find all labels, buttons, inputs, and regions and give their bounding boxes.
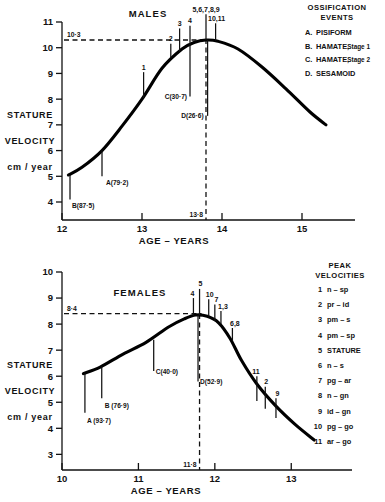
females-legend-item-key: 2 xyxy=(318,300,322,309)
males-peak-velocity-marker-label: 10,11 xyxy=(208,15,225,23)
males-ossification-marker-label: A(79·2) xyxy=(106,179,128,187)
males-y-axis-label-line: STATURE xyxy=(7,110,53,120)
males-peak-velocity-marker-label: 5,6,7,8,9 xyxy=(192,6,219,14)
males-x-tick-label: 14 xyxy=(217,223,228,234)
females-y-axis-label-line: VELOCITY xyxy=(5,386,56,396)
females-legend-item-name: ar – go xyxy=(327,437,352,446)
males-legend-heading-line: EVENTS xyxy=(320,13,353,22)
males-ossification-marker-label: B(87·5) xyxy=(72,202,94,210)
males-legend-item-key: B. xyxy=(305,42,312,51)
males-y-tick-label: 10 xyxy=(42,42,53,53)
females-y-tick-label: 8 xyxy=(48,319,53,330)
females-x-tick-label: 13 xyxy=(286,473,297,484)
males-x-tick-label: 15 xyxy=(297,223,308,234)
males-y-tick-label: 4 xyxy=(48,196,54,207)
males-peak-reference-label: 10·3 xyxy=(67,31,81,38)
males-y-tick-label: 5 xyxy=(48,171,54,182)
males-x-tick-label: 13 xyxy=(137,223,148,234)
females-legend-item-name: pg – ar xyxy=(327,376,351,385)
males-peak-velocity-marker-label: 2 xyxy=(169,35,173,42)
growth-velocity-figure: 456789101112131415AGE – YEARSMALESSTATUR… xyxy=(0,0,385,502)
females-peak-age-label: 11·8 xyxy=(183,461,196,468)
males-legend-item-name: PISIFORM xyxy=(316,28,352,37)
males-peak-velocity-marker-label: 1 xyxy=(142,64,146,71)
males-y-tick-label: 11 xyxy=(43,16,54,27)
males-x-axis-title: AGE – YEARS xyxy=(139,235,209,246)
females-legend-item-name: pr – id xyxy=(327,300,350,309)
males-velocity-curve xyxy=(68,40,326,175)
females-legend-heading-line: PEAK xyxy=(329,261,352,270)
females-ossification-marker-label: C(40·0) xyxy=(156,368,178,376)
females-legend-item-key: 7 xyxy=(318,376,322,385)
females-legend-item-name: n – gn xyxy=(327,391,349,400)
males-legend-item-key: A. xyxy=(305,28,312,37)
females-y-tick-label: 9 xyxy=(48,292,53,303)
females-legend-item-key: 3 xyxy=(318,315,322,324)
females-legend-item-key: 1 xyxy=(318,285,322,294)
females-x-tick-label: 10 xyxy=(57,473,68,484)
males-y-tick-label: 7 xyxy=(48,119,53,130)
females-panel-title: FEMALES xyxy=(113,287,166,298)
females-legend-item-key: 10 xyxy=(314,422,322,431)
males-legend-item-sub: Stage 1 xyxy=(347,43,370,51)
females-peak-velocity-marker-label: 6,8 xyxy=(230,320,240,328)
females-y-tick-label: 4 xyxy=(48,423,54,434)
females-peak-velocity-marker-label: 1,3 xyxy=(218,303,228,311)
females-y-axis-label-line: cm / year xyxy=(7,412,52,422)
females-y-tick-label: 5 xyxy=(48,397,54,408)
males-panel-title: MALES xyxy=(129,8,168,19)
males-legend-item-name: HAMATE, xyxy=(316,55,349,64)
males-y-tick-label: 9 xyxy=(48,68,53,79)
males-legend-heading-line: OSSIFICATION xyxy=(308,3,367,12)
females-peak-velocity-marker-label: 5 xyxy=(199,280,203,287)
males-legend-item-name: HAMATE, xyxy=(316,42,349,51)
females-legend-item-key: 11 xyxy=(314,437,322,446)
females-legend-item-key: 6 xyxy=(318,361,322,370)
females-peak-velocity-marker-label: 9 xyxy=(276,390,280,397)
females-legend-item-key: 5 xyxy=(318,346,322,355)
females-y-axis-label-line: STATURE xyxy=(7,360,53,370)
males-ossification-marker-label: D(26·6) xyxy=(181,112,203,120)
males-y-tick-label: 6 xyxy=(48,145,53,156)
females-x-tick-label: 11 xyxy=(133,473,144,484)
males-legend-item-sub: Stage 2 xyxy=(347,56,370,64)
males-peak-age-label: 13·8 xyxy=(189,211,203,218)
males-x-tick-label: 12 xyxy=(57,223,68,234)
females-legend-item-key: 8 xyxy=(318,391,322,400)
figure-canvas: 456789101112131415AGE – YEARSMALESSTATUR… xyxy=(0,0,385,502)
males-legend-item-key: C. xyxy=(305,55,312,64)
females-ossification-marker-label: D(52·9) xyxy=(200,378,222,386)
females-legend-item-name: pm – sp xyxy=(327,331,355,340)
females-x-tick-label: 12 xyxy=(210,473,221,484)
females-legend-item-name: STATURE xyxy=(327,346,361,355)
males-y-tick-label: 8 xyxy=(48,94,53,105)
males-legend-item-name: SESAMOID xyxy=(316,69,356,78)
females-ossification-marker-label: B (76·9) xyxy=(105,402,129,410)
females-legend-item-name: n – s xyxy=(327,361,344,370)
males-peak-velocity-marker-label: 3 xyxy=(178,20,182,27)
females-legend-item-name: id – gn xyxy=(327,407,351,416)
females-y-tick-label: 6 xyxy=(48,371,53,382)
males-y-axis-label-line: cm / year xyxy=(7,162,52,172)
males-y-axis-label-line: VELOCITY xyxy=(5,136,56,146)
females-legend-item-key: 4 xyxy=(318,331,323,340)
females-legend-heading-line: VELOCITIES xyxy=(315,271,365,280)
males-ossification-marker-label: C(30·7) xyxy=(165,93,187,101)
females-peak-velocity-marker-label: 4 xyxy=(190,290,194,297)
males-legend-item-key: D. xyxy=(305,69,312,78)
males-peak-velocity-marker-label: 4 xyxy=(188,17,192,24)
females-legend-item-name: n – sp xyxy=(327,285,349,294)
females-y-tick-label: 3 xyxy=(48,449,53,460)
females-legend-item-key: 9 xyxy=(318,407,322,416)
females-peak-reference-label: 8·4 xyxy=(67,305,77,312)
females-peak-velocity-marker-label: 2 xyxy=(264,378,268,385)
females-peak-velocity-marker-label: 11 xyxy=(252,368,260,375)
females-peak-velocity-marker-label: 10 xyxy=(206,291,214,298)
females-y-tick-label: 7 xyxy=(48,345,53,356)
females-y-tick-label: 10 xyxy=(42,266,53,277)
females-ossification-marker-label: A (93·7) xyxy=(87,417,111,425)
females-legend-item-name: pm – s xyxy=(327,315,350,324)
females-x-axis-title: AGE – YEARS xyxy=(131,485,201,496)
females-velocity-curve xyxy=(83,315,314,440)
females-legend-item-name: pg – go xyxy=(327,422,354,431)
